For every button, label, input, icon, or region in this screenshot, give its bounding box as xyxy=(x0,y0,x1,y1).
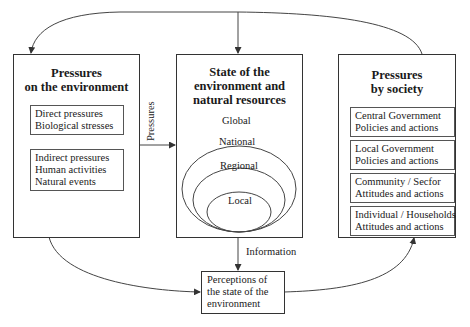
center-box-title: State of the environment and natural res… xyxy=(177,65,302,107)
perceptions-box: Perceptions of the state of the environm… xyxy=(201,271,285,314)
pressures-by-society-box: Pressures by society Central Government … xyxy=(338,54,456,238)
scale-local: Local xyxy=(228,195,252,207)
pressures-on-environment-box: Pressures on the environment Direct pres… xyxy=(13,54,140,238)
local-government-box: Local Government Policies and actions xyxy=(350,140,455,170)
left-box-title: Pressures on the environment xyxy=(14,66,139,94)
direct-pressures-box: Direct pressures Biological stresses xyxy=(30,105,124,135)
individual-households-box: Individual / Households Attitudes and ac… xyxy=(350,206,455,236)
scale-regional: Regional xyxy=(220,160,258,172)
central-government-box: Central Government Policies and actions xyxy=(350,107,455,137)
indirect-pressures-box: Indirect pressures Human activities Natu… xyxy=(30,149,124,191)
scale-global: Global xyxy=(222,115,251,127)
right-box-title: Pressures by society xyxy=(339,68,455,96)
community-sector-box: Community / Secfor Attitudes and actions xyxy=(350,173,455,203)
pressures-arrow-label: Pressures xyxy=(145,101,156,141)
scale-national: National xyxy=(219,136,255,148)
information-arrow-label: Information xyxy=(246,246,296,258)
